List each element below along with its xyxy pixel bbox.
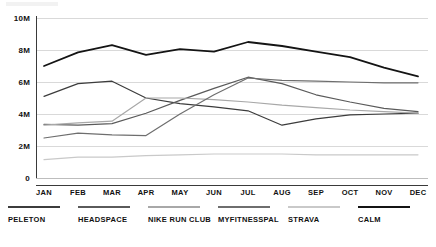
chart-root: 10M8M6M4M2M0 JANFEBMARAPRMAYJUNJULAUGSEP…	[0, 0, 436, 247]
x-tick-label: OCT	[342, 188, 359, 197]
legend-label: CALM	[358, 215, 410, 224]
x-tick-label: DEC	[410, 188, 427, 197]
x-tick-label: AUG	[273, 188, 291, 197]
x-axis-labels: JANFEBMARAPRMAYJUNJULAUGSEPOCTNOVDEC	[36, 188, 428, 204]
x-tick-label: FEB	[70, 188, 86, 197]
x-axis-line	[36, 185, 428, 186]
legend-swatch	[8, 206, 60, 208]
legend-swatch	[218, 206, 270, 208]
gridlines-group	[36, 0, 428, 200]
legend-label: MYFITNESSPAL	[218, 215, 270, 224]
series-line	[44, 154, 418, 160]
plot-area: 10M8M6M4M2M0 JANFEBMARAPRMAYJUNJULAUGSEP…	[0, 0, 436, 200]
legend-swatch	[288, 206, 340, 208]
x-tick-label: MAR	[103, 188, 121, 197]
legend-item[interactable]: PELETON	[8, 206, 60, 224]
series-lines	[36, 0, 428, 200]
y-tick-label: 4M	[18, 110, 30, 119]
legend-item[interactable]: HEADSPACE	[78, 206, 130, 224]
legend-item[interactable]: MYFITNESSPAL	[218, 206, 270, 224]
y-tick-label: 0	[25, 174, 30, 183]
legend-swatch	[148, 206, 200, 208]
legend-item[interactable]: CALM	[358, 206, 410, 224]
series-line	[44, 42, 418, 76]
x-tick-label: JUN	[206, 188, 222, 197]
legend-label: NIKE RUN CLUB	[148, 215, 200, 224]
x-tick-label: JUL	[240, 188, 255, 197]
series-line	[44, 81, 418, 125]
legend-item[interactable]: NIKE RUN CLUB	[148, 206, 200, 224]
y-tick-label: 8M	[18, 46, 30, 55]
x-tick-label: JAN	[36, 188, 52, 197]
y-tick-label: 2M	[18, 142, 30, 151]
series-line	[44, 98, 418, 125]
x-tick-label: MAY	[172, 188, 189, 197]
y-tick-label: 6M	[18, 78, 30, 87]
x-tick-label: APR	[138, 188, 155, 197]
legend-swatch	[78, 206, 130, 208]
legend-item[interactable]: STRAVA	[288, 206, 340, 224]
legend-label: HEADSPACE	[78, 215, 130, 224]
series-line	[44, 78, 418, 138]
y-axis-line	[36, 16, 37, 178]
y-axis-labels: 10M8M6M4M2M0	[0, 0, 30, 200]
chart-legend: PELETONHEADSPACENIKE RUN CLUBMYFITNESSPA…	[8, 206, 428, 242]
legend-label: PELETON	[8, 215, 60, 224]
y-tick-label: 10M	[14, 14, 30, 23]
legend-swatch	[358, 206, 410, 208]
x-tick-label: SEP	[308, 188, 324, 197]
x-tick-label: NOV	[375, 188, 392, 197]
legend-label: STRAVA	[288, 215, 340, 224]
